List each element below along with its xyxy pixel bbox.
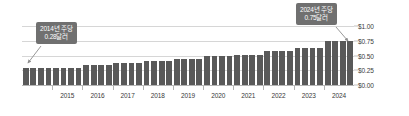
bar [113,63,119,85]
y-axis-labels: $0.00$0.25$0.50$0.75$1.00 [358,0,406,116]
bar [325,41,331,85]
y-axis-tick-label: $0.75 [358,37,374,44]
x-axis-tick [52,86,53,90]
bar [144,61,150,85]
bar [227,56,233,85]
bar [317,48,323,85]
callout-2014-line1: 2014년 주당 [40,25,73,33]
x-axis-tick [294,86,295,90]
bar [91,65,97,85]
x-axis-tick-label: 2022 [272,92,286,99]
x-axis-tick-label: 2020 [211,92,225,99]
x-axis-tick [233,86,234,90]
bar [23,68,29,85]
callout-2014: 2014년 주당 0.28달러 [36,22,77,44]
bar [166,61,172,85]
bar [76,68,82,85]
bar [189,59,195,85]
x-axis-tick [113,86,114,90]
bar [272,51,278,85]
bar [68,68,74,85]
bar [106,65,112,85]
x-axis-tick [173,86,174,90]
x-axis-tick [324,86,325,90]
bar [204,56,210,85]
bar [347,41,353,85]
bar [279,51,285,85]
y-axis-tick-label: $0.50 [358,52,374,59]
x-axis-tick-label: 2024 [332,92,346,99]
bar [332,41,338,85]
bar [234,55,240,85]
bar [181,59,187,85]
x-axis-tick [143,86,144,90]
callout-2024-line1: 2024년 주당 [300,6,333,14]
bar [30,68,36,85]
bar [264,51,270,85]
bar [287,51,293,85]
bar [136,63,142,85]
x-axis-tick-label: 2021 [241,92,255,99]
x-axis-tick [82,86,83,90]
x-axis-tick-label: 2023 [302,92,316,99]
y-axis-tick-label: $0.00 [358,82,374,89]
bar [151,61,157,85]
bar [302,48,308,85]
x-axis-tick [203,86,204,90]
bar [129,63,135,85]
callout-2014-line2: 0.28달러 [40,33,73,41]
bar [212,56,218,85]
bar [242,55,248,85]
bar [196,59,202,85]
bar [257,55,263,85]
x-axis-tick-label: 2019 [181,92,195,99]
bar [159,61,165,85]
x-axis-tick-label: 2015 [60,92,74,99]
bar [310,48,316,85]
bar [121,63,127,85]
x-axis-tick-label: 2017 [121,92,135,99]
bar [295,48,301,85]
y-axis-tick-label: $1.00 [358,23,374,30]
callout-2024-line2: 0.75달러 [300,14,333,22]
bar [46,68,52,85]
callout-2024: 2024년 주당 0.75달러 [296,3,337,25]
bar [174,59,180,85]
x-axis-tick [263,86,264,90]
x-axis-labels: 2015201620172018201920202021202220232024 [22,86,354,108]
x-axis-tick-label: 2018 [151,92,165,99]
bar [53,68,59,85]
x-axis-tick-label: 2016 [90,92,104,99]
y-axis-tick-label: $0.25 [358,67,374,74]
bar [249,55,255,85]
bar [219,56,225,85]
bar [98,65,104,85]
bar [83,65,89,85]
bar [340,41,346,85]
bar [61,68,67,85]
dividend-bar-chart: 2015201620172018201920202021202220232024… [0,0,409,116]
bar [38,68,44,85]
